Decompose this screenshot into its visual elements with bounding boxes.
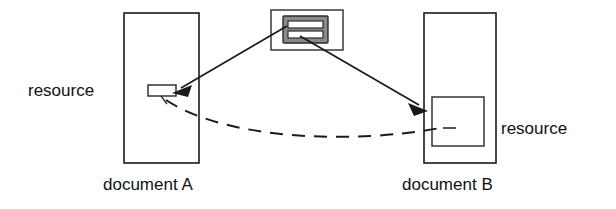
connector-dashed-link [166, 100, 440, 137]
label-resource-right: resource [501, 119, 567, 138]
link-icon-bar-bottom-icon [288, 31, 323, 38]
connector-icon-to-resource-b [300, 36, 419, 105]
link-icon-bar-top-icon [288, 21, 323, 28]
diagram-root: resource resource document A document B [0, 0, 616, 209]
label-resource-left: resource [28, 81, 94, 100]
label-document-b: document B [402, 175, 493, 194]
label-document-a: document A [103, 175, 193, 194]
resource-a-box [148, 85, 176, 96]
diagram-canvas: resource resource document A document B [0, 0, 616, 209]
resource-b-box [432, 97, 484, 146]
